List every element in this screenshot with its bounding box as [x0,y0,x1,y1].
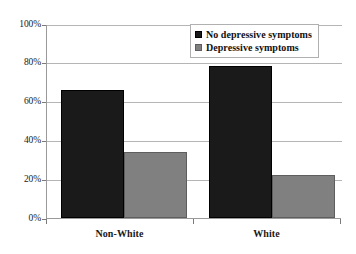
x-tick-mark-right [340,219,341,224]
y-axis-label-40: 40% [0,135,41,145]
y-tick-mark-20 [42,180,46,181]
x-axis-label-non-white: Non-White [46,228,193,239]
y-axis-label-60: 60% [0,96,41,106]
y-tick-mark-100 [42,25,46,26]
bar-white-depressive-symptoms [272,175,335,218]
bar-chart: 100% 80% 60% 40% 20% 0% Non-White White … [0,0,356,254]
y-tick-mark-60 [42,102,46,103]
legend-item-no-depressive-symptoms: No depressive symptoms [195,28,312,41]
bar-white-no-depressive-symptoms [209,66,272,218]
legend-swatch-icon-no-depressive-symptoms [195,31,202,38]
y-axis-label-100: 100% [0,19,41,29]
legend-item-depressive-symptoms: Depressive symptoms [195,41,312,54]
gridline-80 [47,63,342,64]
y-tick-mark-80 [42,63,46,64]
x-tick-mark-left [46,219,47,224]
chart-legend: No depressive symptoms Depressive sympto… [190,24,319,58]
legend-swatch-icon-depressive-symptoms [195,44,202,51]
y-axis-label-0: 0% [0,213,41,223]
y-axis-label-80: 80% [0,57,41,67]
x-tick-mark-middle [193,219,194,224]
y-tick-mark-40 [42,141,46,142]
legend-label-depressive-symptoms: Depressive symptoms [206,42,299,53]
bar-non-white-depressive-symptoms [124,152,187,218]
x-axis-label-white: White [193,228,340,239]
bar-non-white-no-depressive-symptoms [61,90,124,218]
legend-label-no-depressive-symptoms: No depressive symptoms [206,29,312,40]
y-axis-label-20: 20% [0,174,41,184]
